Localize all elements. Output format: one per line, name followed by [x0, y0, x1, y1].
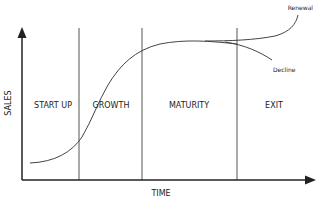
renewal-curve	[205, 15, 298, 41]
stage-label-growth: GROWTH	[93, 101, 130, 110]
x-axis-label: TIME	[150, 189, 170, 198]
y-axis-arrow-icon	[18, 27, 27, 38]
x-axis-arrow-icon	[305, 176, 316, 185]
stage-label-exit: EXIT	[265, 101, 283, 110]
decline-label: Decline	[273, 66, 296, 73]
y-axis-label: SALES	[4, 90, 13, 115]
decline-curve	[225, 42, 272, 60]
stage-label-startup: START UP	[34, 101, 72, 110]
renewal-label: Renewal	[288, 4, 314, 11]
business-life-cycle-diagram: TIME SALES START UP GROWTH MATURITY EXIT…	[0, 0, 321, 203]
stage-label-maturity: MATURITY	[169, 101, 209, 110]
